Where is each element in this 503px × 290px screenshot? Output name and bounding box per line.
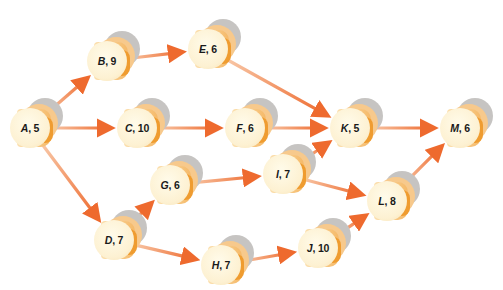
node-label: J, 10 [307, 242, 329, 254]
node-face: D, 7 [94, 220, 134, 260]
node-label: C, 10 [125, 122, 149, 134]
node-D: D, 7 [97, 221, 137, 261]
node-label: I, 7 [276, 168, 290, 180]
node-face: L, 8 [367, 181, 407, 221]
network-diagram: A, 5B, 9C, 10D, 7E, 6F, 6G, 6H, 7I, 7J, … [0, 0, 503, 290]
node-label: F, 6 [236, 122, 253, 134]
node-H: H, 7 [204, 246, 244, 286]
node-label: M, 6 [450, 122, 470, 134]
node-face: H, 7 [201, 245, 241, 285]
node-face: B, 9 [87, 41, 127, 81]
node-J: J, 10 [301, 229, 341, 269]
node-I: I, 7 [266, 155, 306, 195]
edge-D-H [133, 244, 196, 259]
node-label: E, 6 [199, 43, 217, 55]
node-label: H, 7 [212, 259, 230, 271]
edge-I-L [301, 179, 361, 195]
node-E: E, 6 [191, 30, 231, 70]
node-M: M, 6 [443, 109, 483, 149]
node-label: D, 7 [105, 234, 123, 246]
node-F: F, 6 [228, 109, 268, 149]
node-face: F, 6 [225, 108, 265, 148]
node-A: A, 5 [13, 109, 53, 149]
node-label: B, 9 [98, 55, 116, 67]
node-label: K, 5 [341, 122, 359, 134]
node-L: L, 8 [370, 182, 410, 222]
node-C: C, 10 [120, 109, 160, 149]
node-label: G, 6 [160, 179, 179, 191]
node-face: M, 6 [440, 108, 480, 148]
node-G: G, 6 [153, 166, 193, 206]
node-face: E, 6 [188, 29, 228, 69]
node-label: A, 5 [21, 122, 39, 134]
node-face: J, 10 [298, 228, 338, 268]
node-face: K, 5 [330, 108, 370, 148]
node-K: K, 5 [333, 109, 373, 149]
node-face: C, 10 [117, 108, 157, 148]
node-face: I, 7 [263, 154, 303, 194]
node-label: L, 8 [378, 195, 395, 207]
node-face: A, 5 [10, 108, 50, 148]
node-B: B, 9 [90, 42, 130, 82]
node-face: G, 6 [150, 165, 190, 205]
edge-A-D [41, 143, 98, 219]
